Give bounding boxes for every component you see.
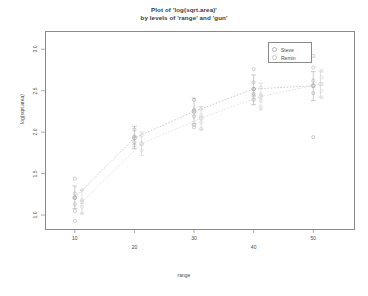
x-tick-label: 40 — [242, 244, 266, 250]
y-tick-label: 1.5 — [32, 164, 38, 184]
legend-label: Remin — [281, 55, 295, 61]
legend-label: Steve — [281, 47, 294, 53]
x-tick-label: 50 — [301, 235, 325, 241]
legend-item-remin[interactable]: Remin — [272, 53, 295, 62]
legend-key-icon — [272, 47, 277, 52]
x-axis-label: range — [0, 272, 368, 278]
y-tick-label: 1.0 — [32, 205, 38, 225]
chart-page: Plot of 'log(sqrt.area)' by levels of 'r… — [0, 0, 368, 296]
x-tick-label: 10 — [63, 235, 87, 241]
x-tick-label: 30 — [182, 235, 206, 241]
x-tick-label: 20 — [122, 244, 146, 250]
y-tick-label: 2.0 — [32, 122, 38, 142]
legend: Steve Remin — [268, 42, 312, 63]
y-tick-label: 3.0 — [32, 39, 38, 59]
y-axis-label: log(sqrt.area) — [19, 69, 25, 149]
legend-key-icon — [272, 55, 277, 60]
y-tick-label: 2.5 — [32, 81, 38, 101]
plot-canvas — [0, 0, 368, 296]
